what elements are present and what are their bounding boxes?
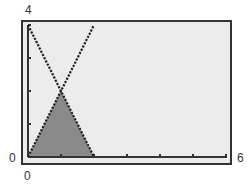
- plot-area: [0, 0, 251, 190]
